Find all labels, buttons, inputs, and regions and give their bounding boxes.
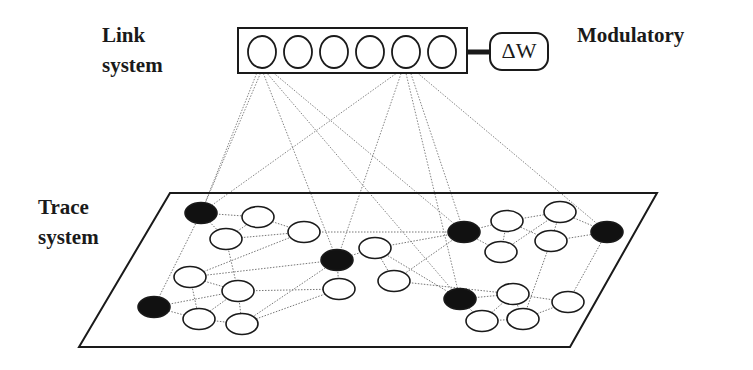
trace-node xyxy=(174,267,206,288)
link-unit xyxy=(284,36,312,68)
active-trace-node xyxy=(138,297,170,318)
link-edge xyxy=(201,65,260,213)
link-edge xyxy=(201,65,264,213)
link-unit xyxy=(428,36,456,68)
link-unit xyxy=(320,36,348,68)
trace-node xyxy=(552,292,584,313)
link-unit xyxy=(248,36,276,68)
trace-node xyxy=(466,311,498,332)
trace-node xyxy=(183,309,215,330)
trace-edge xyxy=(523,241,551,319)
link-edge xyxy=(260,65,460,299)
trace-edge xyxy=(154,213,201,307)
link-edge xyxy=(404,65,460,299)
trace-node xyxy=(210,229,242,250)
link-edge xyxy=(264,65,464,232)
trace-system-label-line1: Trace xyxy=(38,192,99,222)
active-trace-node xyxy=(444,289,476,310)
modulatory-label: Modulatory xyxy=(577,20,684,50)
trace-node xyxy=(535,231,567,252)
active-trace-node xyxy=(321,250,353,271)
link-system-label: Link system xyxy=(102,20,163,80)
trace-system-label: Trace system xyxy=(38,192,99,252)
trace-system-label-line2: system xyxy=(38,222,99,252)
trace-node xyxy=(242,207,274,228)
trace-node xyxy=(323,279,355,300)
trace-nodes xyxy=(138,202,623,335)
link-system-label-line2: system xyxy=(102,50,163,80)
active-trace-node xyxy=(185,203,217,224)
link-edge xyxy=(337,65,404,260)
link-unit xyxy=(356,36,384,68)
link-edge xyxy=(408,65,464,232)
trace-node xyxy=(544,202,576,223)
diagram-canvas: Link system Modulatory Trace system ΔW xyxy=(0,0,753,370)
delta-w-label: ΔW xyxy=(490,36,548,66)
trace-node xyxy=(359,238,391,259)
trace-node xyxy=(222,281,254,302)
trace-node xyxy=(378,271,410,292)
link-edge xyxy=(201,65,408,213)
link-unit xyxy=(392,36,420,68)
trace-node xyxy=(485,242,517,263)
active-trace-node xyxy=(448,222,480,243)
link-system-label-line1: Link xyxy=(102,20,163,50)
trace-node xyxy=(226,314,258,335)
trace-node xyxy=(288,222,320,243)
active-trace-node xyxy=(591,222,623,243)
link-edge xyxy=(408,65,607,232)
link-to-trace-connections xyxy=(201,65,607,299)
trace-node xyxy=(497,284,529,305)
trace-node xyxy=(507,309,539,330)
trace-node xyxy=(491,211,523,232)
